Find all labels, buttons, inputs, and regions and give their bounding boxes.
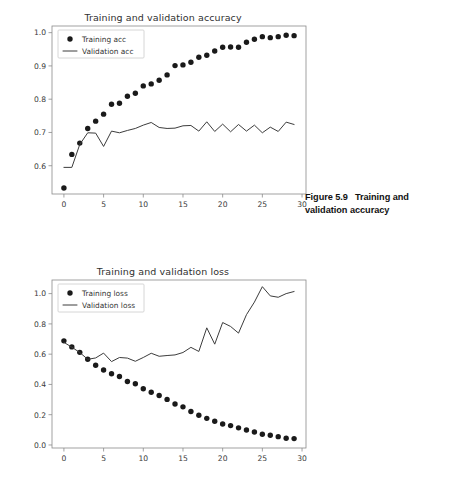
data-point [204, 53, 209, 58]
x-tick-label: 10 [138, 454, 148, 463]
x-tick-label: 0 [61, 200, 66, 209]
data-point [196, 413, 201, 418]
data-point [133, 91, 138, 96]
data-point [220, 45, 225, 50]
data-point [244, 427, 249, 432]
series-line-validation-acc [64, 122, 294, 168]
data-point [141, 83, 146, 88]
loss-plot-area: Training and validation loss 05101520253… [18, 262, 308, 492]
data-point [260, 432, 265, 437]
loss-chart-svg: 0510152025300.00.20.40.60.81.0Training l… [18, 262, 308, 487]
y-tick-label: 0.9 [34, 62, 46, 71]
data-point [220, 421, 225, 426]
y-tick-label: 0.7 [34, 128, 46, 137]
legend-label-line: Validation loss [82, 301, 135, 310]
x-tick-label: 10 [138, 200, 148, 209]
data-point [228, 423, 233, 428]
data-point [156, 393, 161, 398]
figure-caption-accuracy: Figure 5.9Training and validation accura… [305, 191, 445, 218]
x-tick-label: 5 [101, 200, 106, 209]
data-point [252, 429, 257, 434]
data-point [101, 111, 106, 116]
y-tick-label: 0.8 [34, 320, 46, 329]
data-point [85, 126, 90, 131]
data-point [180, 62, 185, 67]
accuracy-plot-area: Training and validation accuracy 0510152… [18, 8, 308, 238]
data-point [109, 371, 114, 376]
y-tick-label: 1.0 [34, 289, 46, 298]
data-point [69, 152, 74, 157]
legend-label-markers: Training acc [81, 35, 126, 44]
data-point [125, 93, 130, 98]
data-point [172, 63, 177, 68]
x-tick-label: 0 [61, 454, 66, 463]
caption-number-accuracy: Figure 5.9 [305, 192, 348, 202]
legend-marker-icon [67, 290, 72, 295]
chart-legend: Training accValidation acc [58, 30, 144, 58]
data-point [188, 409, 193, 414]
data-point [188, 60, 193, 65]
data-point [93, 363, 98, 368]
x-tick-label: 5 [101, 454, 106, 463]
data-point [268, 35, 273, 40]
legend-label-line: Validation acc [82, 47, 134, 56]
x-tick-label: 25 [258, 454, 268, 463]
data-point [212, 419, 217, 424]
data-point [291, 33, 296, 38]
data-point [236, 45, 241, 50]
data-point [149, 81, 154, 86]
data-point [125, 379, 130, 384]
data-point [133, 381, 138, 386]
data-point [156, 78, 161, 83]
data-point [291, 436, 296, 441]
data-point [276, 434, 281, 439]
x-tick-label: 20 [218, 200, 228, 209]
data-point [109, 101, 114, 106]
data-point [283, 436, 288, 441]
x-tick-label: 25 [258, 200, 268, 209]
y-tick-label: 0.6 [34, 350, 46, 359]
data-point [180, 404, 185, 409]
data-point [260, 34, 265, 39]
y-tick-label: 0.4 [34, 380, 46, 389]
y-tick-label: 0.8 [34, 95, 46, 104]
figure-accuracy: Training and validation accuracy 0510152… [0, 8, 452, 243]
data-point [228, 44, 233, 49]
data-point [236, 425, 241, 430]
figure-loss: Training and validation loss 05101520253… [0, 262, 452, 497]
data-point [117, 374, 122, 379]
x-tick-label: 20 [218, 454, 228, 463]
data-point [196, 55, 201, 60]
data-point [164, 72, 169, 77]
legend-marker-icon [67, 36, 72, 41]
x-tick-label: 30 [297, 454, 307, 463]
data-point [61, 185, 66, 190]
data-point [252, 37, 257, 42]
data-point [212, 48, 217, 53]
data-point [117, 100, 122, 105]
data-point [268, 433, 273, 438]
chart-legend: Training lossValidation loss [58, 284, 144, 312]
data-point [283, 33, 288, 38]
data-point [93, 118, 98, 123]
data-point [172, 401, 177, 406]
legend-label-markers: Training loss [81, 289, 128, 298]
data-point [276, 34, 281, 39]
data-point [149, 390, 154, 395]
x-tick-label: 15 [178, 200, 188, 209]
y-tick-label: 0.0 [34, 441, 46, 450]
x-tick-label: 15 [178, 454, 188, 463]
y-tick-label: 0.2 [34, 411, 46, 420]
data-point [101, 367, 106, 372]
accuracy-chart-svg: 0510152025300.60.70.80.91.0Training accV… [18, 8, 308, 233]
data-point [204, 416, 209, 421]
y-tick-label: 0.6 [34, 162, 46, 171]
data-point [141, 386, 146, 391]
data-point [244, 40, 249, 45]
data-point [164, 397, 169, 402]
y-tick-label: 1.0 [34, 28, 46, 37]
